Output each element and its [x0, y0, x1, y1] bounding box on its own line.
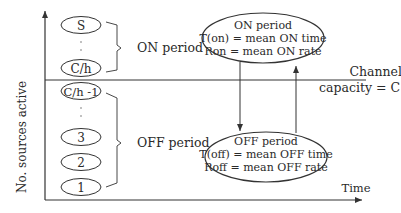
off-brace [106, 93, 121, 187]
state-c-over-h: C/h [61, 60, 101, 77]
channel-label-line1: Channel [349, 64, 401, 79]
svg-text:2: 2 [77, 156, 85, 170]
on-period-node: ON period T(on) = mean ON time Ron = mea… [200, 13, 327, 63]
state-s: S [61, 17, 101, 34]
on-group-label: ON period [137, 40, 203, 55]
off-time: T(off) = mean OFF time [199, 148, 332, 161]
on-time: T(on) = mean ON time [200, 32, 327, 45]
channel-label-line2: capacity = C [319, 80, 400, 95]
ellipsis-dots-off [80, 107, 81, 116]
on-brace [106, 22, 121, 72]
state-2: 2 [61, 154, 101, 171]
state-3: 3 [61, 129, 101, 146]
ellipsis-dots-on [80, 41, 81, 50]
svg-text:C/h -1: C/h -1 [64, 85, 99, 99]
off-title: OFF period [234, 135, 298, 148]
off-rate: Roff = mean OFF rate [204, 161, 328, 174]
svg-text:1: 1 [77, 181, 85, 195]
source-state-diagram: No. sources active Time Channel capacity… [0, 0, 401, 213]
y-axis-label: No. sources active [15, 81, 29, 193]
on-rate: Ron = mean ON rate [204, 45, 321, 58]
state-1: 1 [61, 179, 101, 196]
svg-text:C/h: C/h [71, 62, 92, 76]
state-c-over-h-minus-1: C/h -1 [61, 83, 101, 100]
svg-text:3: 3 [77, 131, 85, 145]
off-period-node: OFF period T(off) = mean OFF time Roff =… [199, 132, 332, 182]
svg-text:S: S [77, 19, 85, 33]
x-axis-label: Time [341, 181, 370, 195]
on-title: ON period [234, 19, 292, 32]
